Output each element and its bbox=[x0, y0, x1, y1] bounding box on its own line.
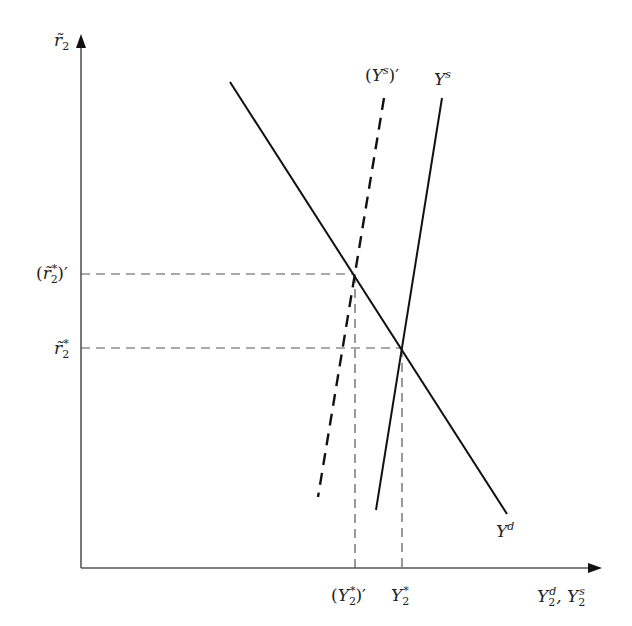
x-tick-y-star: Y2* bbox=[391, 584, 409, 608]
y-tick-r-star: r̃2* bbox=[54, 337, 69, 361]
demand-label: Yd bbox=[496, 520, 514, 541]
supply-shifted-label: (Ys)′ bbox=[365, 64, 399, 85]
demand-curve bbox=[230, 82, 507, 514]
supply-curve bbox=[376, 98, 442, 510]
y-axis-arrow-icon bbox=[76, 34, 86, 48]
y-axis-label: r̃2 bbox=[54, 30, 69, 53]
x-axis-arrow-icon bbox=[588, 563, 602, 573]
x-tick-y-prime: (Y2*)′ bbox=[331, 584, 366, 608]
x-axis-label: Y2d, Y2s bbox=[537, 585, 585, 609]
y-tick-r-prime: (r̃2*)′ bbox=[36, 262, 68, 286]
supply-shifted-curve bbox=[318, 98, 384, 497]
supply-label: Ys bbox=[434, 68, 451, 89]
diagram-canvas bbox=[0, 0, 632, 626]
